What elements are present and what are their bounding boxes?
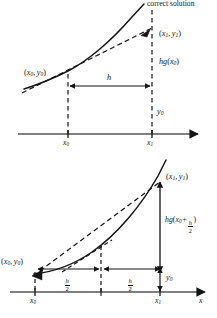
fraction-denominator-two: 2 — [65, 286, 70, 293]
x-subscript-one: 1 — [150, 141, 153, 147]
paren-close: ) — [193, 215, 196, 224]
half-step-right-label: h2 — [127, 274, 133, 293]
half-step-fraction-right: h2 — [128, 278, 133, 293]
step-width-label-top: h — [107, 74, 111, 82]
tick-label-x1-bottom: x1 — [155, 297, 161, 305]
y-initial-label-top: y0 — [157, 108, 163, 117]
paren-close: ) — [176, 57, 179, 66]
y-subscript-zero: 0 — [161, 110, 164, 116]
x-subscript-zero: 0 — [66, 141, 69, 147]
increment-label-bottom: hg(x0 + h2) — [165, 216, 196, 234]
midpoint-chord-dashed — [33, 182, 160, 276]
tick-label-x0-bottom: x0 — [30, 297, 36, 305]
paren-close: ) — [185, 172, 188, 181]
midpoint-tangent-dashed — [62, 240, 112, 272]
start-point-arrow-bottom — [32, 270, 42, 280]
tick-label-x0-top: x0 — [63, 139, 69, 147]
comma-symbol: , — [10, 257, 12, 266]
increment-label-top: hg(x0) — [159, 58, 179, 67]
fraction-numerator-h: h — [128, 278, 133, 285]
fraction-numerator-h: h — [65, 278, 70, 285]
half-step-fraction-left: h2 — [65, 278, 70, 293]
fraction-denominator-two: 2 — [128, 286, 133, 293]
correct-solution-label: correct solution — [147, 0, 194, 8]
paren-close: ) — [43, 68, 46, 77]
comma-symbol: , — [175, 172, 177, 181]
end-point-label-top: (x1, y1) — [159, 30, 181, 39]
x-subscript-zero: 0 — [33, 299, 36, 305]
correct-solution-curve-bottom — [34, 160, 166, 274]
axis-label-x-bottom: x — [199, 297, 202, 305]
fraction-denominator-two: 2 — [188, 228, 193, 234]
y-subscript-zero: 0 — [170, 276, 173, 282]
figure-root: correct solution (x1, y1) hg(x0) (x0, y0… — [0, 0, 217, 318]
x-subscript-one: 1 — [158, 299, 161, 305]
half-step-left-label: h2 — [64, 274, 70, 293]
comma-symbol: , — [168, 29, 170, 38]
start-point-label-bottom: (x0, y0) — [1, 258, 23, 267]
paren-close: ) — [20, 257, 23, 266]
end-point-label-bottom: (x1, y1) — [166, 173, 188, 182]
plus-symbol: + — [182, 215, 186, 224]
start-point-label-top: (x0, y0) — [24, 69, 46, 78]
y-initial-label-bottom: y0 — [166, 274, 172, 283]
paren-close: ) — [178, 29, 181, 38]
tick-label-x1-top: x1 — [147, 139, 153, 147]
comma-symbol: , — [33, 68, 35, 77]
diagram-vector-layer — [0, 0, 217, 318]
